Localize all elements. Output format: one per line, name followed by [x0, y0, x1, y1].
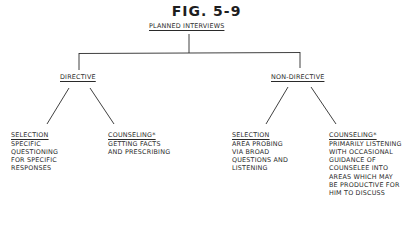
leaf-text-line: PRIMARILY LISTENING [329, 140, 402, 148]
leaf-directive-selection: SELECTION SPECIFIC QUESTIONING FOR SPECI… [11, 131, 58, 173]
leaf-text-line: GUIDANCE OF [329, 156, 402, 164]
leaf-text-line: AREAS WHICH MAY [329, 173, 402, 181]
leaf-text-line: QUESTIONS AND [232, 156, 288, 164]
leaf-text-line: GETTING FACTS [108, 140, 170, 148]
leaf-text-line: QUESTIONING [11, 148, 58, 156]
leaf-text-line: WITH OCCASIONAL [329, 148, 402, 156]
leaf-directive-counseling: COUNSELING* GETTING FACTS AND PRESCRIBIN… [108, 131, 170, 156]
leaf-text-line: LISTENING [232, 164, 288, 172]
leaf-label: SELECTION [11, 131, 58, 140]
leaf-text-line: SPECIFIC [11, 140, 58, 148]
leaf-label: SELECTION [232, 131, 288, 140]
root-node-planned-interviews: PLANNED INTERVIEWS [149, 22, 224, 31]
leaf-text-line: AREA PROBING [232, 140, 288, 148]
leaf-text-line: AND PRESCRIBING [108, 148, 170, 156]
node-non-directive: NON-DIRECTIVE [271, 73, 324, 82]
node-directive: DIRECTIVE [60, 73, 96, 82]
leaf-nondirective-selection: SELECTION AREA PROBING VIA BROAD QUESTIO… [232, 131, 288, 173]
leaf-text-line: HIM TO DISCUSS [329, 189, 402, 197]
leaf-text-line: FOR SPECIFIC [11, 156, 58, 164]
leaf-text-line: RESPONSES [11, 164, 58, 172]
leaf-text-line: VIA BROAD [232, 148, 288, 156]
leaf-label: COUNSELING* [108, 131, 170, 140]
leaf-text-line: BE PRODUCTIVE FOR [329, 181, 402, 189]
leaf-label: COUNSELING* [329, 131, 402, 140]
leaf-nondirective-counseling: COUNSELING* PRIMARILY LISTENING WITH OCC… [329, 131, 402, 198]
leaf-text-line: COUNSELEE INTO [329, 164, 402, 172]
